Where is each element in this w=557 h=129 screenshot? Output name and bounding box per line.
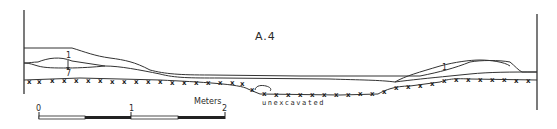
svg-text:x: x xyxy=(134,78,139,86)
svg-text:x: x xyxy=(478,76,483,84)
svg-text:x: x xyxy=(274,91,279,99)
svg-text:x: x xyxy=(240,80,245,88)
svg-text:x: x xyxy=(146,78,151,86)
svg-text:x: x xyxy=(490,76,495,84)
svg-text:x: x xyxy=(182,79,187,87)
svg-text:x: x xyxy=(514,77,519,85)
svg-text:x: x xyxy=(466,76,471,84)
svg-text:x: x xyxy=(37,78,42,86)
svg-text:x: x xyxy=(298,91,303,99)
svg-text:x: x xyxy=(370,90,375,98)
svg-text:x: x xyxy=(394,84,399,92)
scale-unit-label: Meters xyxy=(194,97,221,106)
svg-text:x: x xyxy=(110,78,115,86)
layer-label-7: 7 xyxy=(66,69,71,78)
layer-label-1-right: 1 xyxy=(442,63,447,72)
scale-tick-2: 2 xyxy=(222,104,227,113)
svg-text:x: x xyxy=(406,83,411,91)
svg-text:x: x xyxy=(334,91,339,99)
profile-title: A.4 xyxy=(255,30,276,43)
scale-tick-1: 1 xyxy=(129,104,134,113)
layer-label-1-left: 1 xyxy=(66,51,71,60)
svg-text:x: x xyxy=(526,77,531,85)
scale-tick-0: 0 xyxy=(36,104,41,113)
svg-text:x: x xyxy=(74,77,79,85)
svg-text:x: x xyxy=(170,79,175,87)
scale-bar: Meters 0 1 2 xyxy=(36,97,227,119)
left-lens-layer xyxy=(24,58,105,68)
svg-text:x: x xyxy=(358,90,363,98)
svg-text:x: x xyxy=(86,77,91,85)
svg-text:x: x xyxy=(230,79,235,87)
unexcavated-label: unexcavated xyxy=(262,99,325,107)
svg-text:x: x xyxy=(418,82,423,90)
svg-text:x: x xyxy=(218,79,223,87)
svg-text:x: x xyxy=(206,79,211,87)
svg-text:x: x xyxy=(286,91,291,99)
svg-text:x: x xyxy=(27,78,32,86)
svg-text:x: x xyxy=(62,77,67,85)
base-x-markers: x x x x x x x x x x x x x x x x x x x x … xyxy=(27,76,531,99)
svg-text:x: x xyxy=(346,91,351,99)
svg-text:x: x xyxy=(382,88,387,96)
svg-text:x: x xyxy=(502,76,507,84)
svg-text:x: x xyxy=(158,78,163,86)
svg-text:x: x xyxy=(194,79,199,87)
svg-text:x: x xyxy=(250,86,255,94)
svg-text:x: x xyxy=(50,77,55,85)
svg-text:x: x xyxy=(98,77,103,85)
profile-diagram: A.4 x x x x x x x x x x x x x x x x x x … xyxy=(0,0,557,129)
svg-text:x: x xyxy=(262,90,267,98)
svg-text:x: x xyxy=(310,91,315,99)
svg-text:x: x xyxy=(322,91,327,99)
svg-text:x: x xyxy=(122,78,127,86)
svg-text:x: x xyxy=(454,76,459,84)
svg-text:x: x xyxy=(430,80,435,88)
svg-text:x: x xyxy=(442,77,447,85)
